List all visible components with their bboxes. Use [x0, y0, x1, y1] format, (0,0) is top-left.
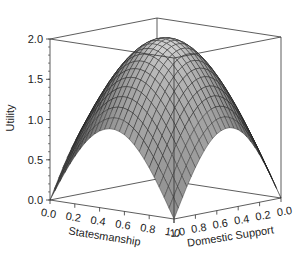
z-tick-label: 0.5	[28, 154, 43, 166]
x-tick-label: 0.0	[40, 206, 57, 220]
x-tick-label: 0.4	[90, 214, 107, 228]
box-edge	[50, 18, 157, 39]
box-edge	[157, 18, 281, 37]
x-tick-label: 0.6	[115, 217, 132, 231]
y-tick-label: 0.4	[233, 212, 250, 226]
y-tick-label: 1.0	[169, 225, 186, 239]
z-axis-label: Utility	[4, 104, 16, 131]
z-tick-label: 0.0	[28, 194, 43, 206]
y-tick-label: 0.2	[254, 208, 271, 222]
y-tick-label: 0.6	[212, 217, 229, 231]
z-axis: 0.00.51.01.52.0	[28, 33, 50, 206]
z-tick-label: 1.0	[28, 114, 43, 126]
x-axis-label: Statesmanship	[68, 224, 142, 247]
y-tick-label: 0.8	[190, 221, 207, 235]
x-tick-label: 0.8	[139, 221, 156, 235]
box-edge	[50, 179, 157, 200]
z-tick-label: 2.0	[28, 33, 43, 45]
plot-canvas: 0.00.51.01.52.0 0.00.20.40.60.81.0 1.00.…	[0, 0, 297, 265]
x-tick-label: 0.2	[65, 210, 82, 224]
y-tick-label: 0.0	[276, 204, 293, 218]
z-tick-label: 1.5	[28, 73, 43, 85]
surface-plot: 0.00.51.01.52.0 0.00.20.40.60.81.0 1.00.…	[0, 0, 297, 265]
utility-surface	[50, 38, 281, 220]
